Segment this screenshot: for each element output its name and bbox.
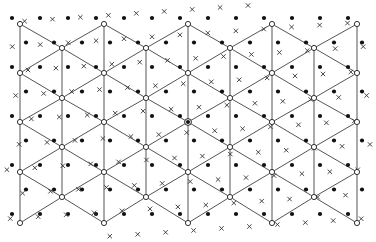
dot-marker [178,65,182,69]
dot-marker [150,16,154,20]
cross-marker [328,170,332,174]
dot-marker [122,65,126,69]
diagonal-edge [230,98,272,122]
diagonal-edge [62,172,104,197]
cross-marker [45,140,49,144]
dot-marker [80,40,84,44]
dot-marker [178,212,182,216]
lattice-vertex [269,70,274,75]
diagonal-edge [62,147,104,172]
dot-marker [346,114,350,118]
dot-marker [136,187,140,191]
cross-marker [206,31,210,35]
cross-marker [300,172,304,176]
dot-marker [248,138,252,142]
diagonal-edge [188,122,230,147]
dot-marker [94,65,98,69]
diagonal-edge [20,48,62,73]
dot-marker [108,40,112,44]
dot-marker [80,89,84,93]
dot-marker [318,212,322,216]
dot-marker [38,65,42,69]
diagonal-edge [230,172,272,197]
dot-marker [10,163,14,167]
cross-marker [106,13,110,17]
dot-marker [360,89,364,93]
dot-marker [94,16,98,20]
lattice-vertex [269,21,274,26]
cross-marker [122,37,126,41]
lattice-vertex [269,119,274,124]
dot-marker [304,187,308,191]
diagonal-edge [188,172,230,197]
lattice-vertex [143,95,148,100]
diagonal-edge [146,147,188,172]
cross-marker [172,156,176,160]
dot-marker [24,40,28,44]
dot-marker [122,114,126,118]
diagonal-edge [104,122,146,147]
dot-marker [52,89,56,93]
dot-marker [360,187,364,191]
lattice-vertex [185,220,190,225]
cross-marker [349,70,353,74]
cross-marker [141,109,145,113]
cross-marker [234,29,238,33]
diagonal-edge [272,73,314,98]
diagonal-edge [188,48,230,73]
dot-marker [248,89,252,93]
lattice-vertex [311,144,316,149]
dot-marker [360,138,364,142]
cross-marker [97,87,101,91]
dot-marker [94,163,98,167]
cross-marker [337,95,341,99]
dot-marker [94,114,98,118]
dot-marker [332,40,336,44]
dot-marker [206,114,210,118]
cross-marker [296,123,300,127]
lattice-vertex [354,70,359,75]
diagonal-edge [20,172,62,197]
dot-marker [164,89,168,93]
cross-marker [262,27,266,31]
dot-marker [38,16,42,20]
dot-marker [276,40,280,44]
cross-marker [277,50,281,54]
cross-marker [221,54,225,58]
dot-marker [290,16,294,20]
cross-marker [153,84,157,88]
cross-marker [256,150,260,154]
cross-marker [218,5,222,9]
cross-marker [287,197,291,201]
lattice-vertex [101,119,106,124]
cross-marker [193,56,197,60]
diagonal-edge [188,197,230,223]
dot-marker [234,16,238,20]
cross-marker [200,154,204,158]
cross-marker [17,142,21,146]
cross-marker [303,220,307,224]
cross-marker [368,142,372,146]
dot-marker [346,212,350,216]
cross-marker [104,185,108,189]
diagonal-edge [230,147,272,172]
cross-marker [178,33,182,37]
diagonal-edge [104,48,146,73]
dot-marker [24,138,28,142]
dot-marker [206,212,210,216]
cross-marker [284,148,288,152]
cross-marker [359,217,363,221]
cross-marker [197,105,201,109]
lattice-vertex [101,21,106,26]
cross-marker [260,199,264,203]
lattice-vertex [227,194,232,199]
dot-marker [66,114,70,118]
dot-marker [38,114,42,118]
dot-marker [290,114,294,118]
dot-marker [66,16,70,20]
diagonal-edge [146,172,188,197]
cross-marker [8,216,12,220]
lattice-vertex [269,169,274,174]
dot-marker [234,163,238,167]
cross-marker [110,62,114,66]
